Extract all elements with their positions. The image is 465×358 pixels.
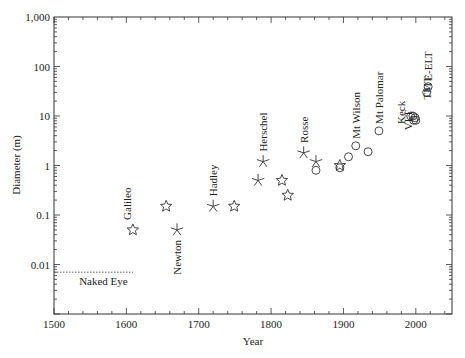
x-tick-label: 1900 xyxy=(332,318,355,330)
point-label-vlt: VLT xyxy=(402,110,414,131)
y-axis-title: Diameter (m) xyxy=(10,135,23,195)
y-tick-label: 1 xyxy=(45,160,51,172)
asterisk-marker xyxy=(252,174,264,186)
circle-marker xyxy=(312,166,320,174)
asterisk-marker xyxy=(171,223,183,235)
circle-marker xyxy=(345,153,353,161)
point-label-e-elt: E-ELT xyxy=(422,51,434,81)
asterisk-marker xyxy=(257,155,269,167)
naked-eye-label: Naked Eye xyxy=(79,275,128,287)
y-tick-label: 100 xyxy=(34,61,51,73)
telescope-diameter-chart: 1500160017001800190020000.010.11101001,0… xyxy=(0,0,465,358)
star-marker xyxy=(228,200,239,211)
star-marker xyxy=(160,200,171,211)
point-label-hadley: Hadley xyxy=(207,164,219,196)
y-tick-label: 0.1 xyxy=(36,209,50,221)
asterisk-marker xyxy=(297,146,309,158)
point-label-galileo: Galileo xyxy=(121,187,133,220)
circle-marker xyxy=(364,148,372,156)
point-labels: GalileoNewtonHadleyHerschelRosseMt Wilso… xyxy=(121,51,434,275)
point-label-herschel: Herschel xyxy=(257,113,269,152)
naked-eye-annotation: Naked Eye xyxy=(54,272,133,287)
circle-marker xyxy=(375,127,383,135)
plot-frame xyxy=(54,17,452,314)
x-tick-label: 2000 xyxy=(405,318,428,330)
star-marker xyxy=(276,174,287,185)
x-tick-label: 1500 xyxy=(43,318,66,330)
y-tick-label: 0.01 xyxy=(31,259,50,271)
circle-marker xyxy=(352,142,360,150)
asterisk-marker xyxy=(207,200,219,212)
asterisk-marker xyxy=(310,155,322,167)
star-marker xyxy=(127,224,138,235)
point-label-newton: Newton xyxy=(171,239,183,274)
y-tick-label: 10 xyxy=(39,110,51,122)
point-label-mt-wilson: Mt Wilson xyxy=(350,92,362,139)
x-tick-label: 1700 xyxy=(188,318,211,330)
point-label-rosse: Rosse xyxy=(298,117,310,143)
x-tick-label: 1600 xyxy=(115,318,138,330)
point-label-mt-palomar: Mt Palomar xyxy=(373,71,385,124)
x-tick-label: 1800 xyxy=(260,318,283,330)
y-tick-label: 1,000 xyxy=(25,11,50,23)
data-points xyxy=(127,83,432,235)
x-axis-title: Year xyxy=(243,335,264,347)
axes xyxy=(54,17,452,314)
star-marker xyxy=(282,189,293,200)
